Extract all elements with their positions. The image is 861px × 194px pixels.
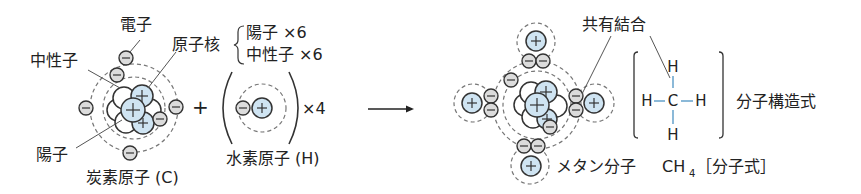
atom-c-center: C: [668, 92, 678, 110]
hydrogen-multiplier: ×4: [302, 99, 326, 118]
right-paren: [289, 72, 298, 144]
plus-sign: +: [192, 95, 209, 119]
methane-formation-diagram: 電子 中性子 原子核 陽子 炭素原子 (C) 陽子 ×6 中性子 ×6 + ×4…: [0, 0, 861, 194]
electron: [110, 68, 124, 82]
nucleus-label: 原子核: [172, 35, 220, 54]
molecular-formula-label: ［分子式］: [696, 157, 776, 176]
formula-ch: CH: [662, 157, 685, 176]
neutron-label: 中性子: [30, 51, 78, 70]
electron-label: 電子: [120, 15, 152, 34]
methane-molecule-label: メタン分子: [556, 157, 636, 176]
right-bracket: [719, 52, 723, 138]
hydrogen-atom: ×4 水素原子 (H): [223, 72, 326, 168]
electron: [119, 51, 133, 65]
carbon-nucleus: [107, 85, 161, 134]
methane-molecule: メタン分子: [454, 23, 636, 184]
electron: [484, 89, 498, 103]
electron: [504, 73, 518, 87]
electron: [569, 103, 583, 117]
electron: [79, 101, 93, 115]
covalent-bond-label: 共有結合: [582, 15, 646, 34]
proton-label: 陽子: [36, 145, 68, 164]
nucleus-neutron-count: 中性子 ×6: [246, 45, 323, 64]
molecular-formula: CH 4 ［分子式］: [662, 157, 776, 179]
left-paren: [223, 72, 232, 144]
atom-h-top: H: [667, 58, 678, 76]
carbon-atom-label: 炭素原子 (C): [86, 168, 179, 187]
electron: [536, 54, 550, 68]
hydrogen-proton: [526, 31, 546, 51]
hydrogen-proton: [462, 93, 482, 113]
nucleus-brace: [234, 26, 244, 64]
electron: [531, 139, 545, 153]
atom-h-bottom: H: [667, 126, 678, 144]
hydrogen-atom-label: 水素原子 (H): [226, 149, 320, 168]
electron: [569, 89, 583, 103]
electron: [153, 112, 167, 126]
nucleus-proton-count: 陽子 ×6: [246, 23, 307, 42]
atom-h-right: H: [695, 92, 706, 110]
structural-formula-label: 分子構造式: [736, 92, 816, 111]
hydrogen-proton: [521, 156, 541, 176]
electron: [484, 103, 498, 117]
electron: [543, 120, 557, 134]
left-bracket: [634, 52, 638, 138]
electron: [522, 54, 536, 68]
reaction-arrow: [368, 106, 414, 113]
proton: [252, 98, 272, 118]
methane-carbon-nucleus: [514, 81, 567, 129]
structural-formula: H H H H C 分子構造式: [634, 52, 816, 144]
electron: [123, 146, 137, 160]
electron: [236, 101, 250, 115]
electron: [169, 100, 183, 114]
electron: [517, 139, 531, 153]
atom-h-left: H: [641, 92, 652, 110]
hydrogen-proton: [584, 93, 604, 113]
formula-subscript: 4: [689, 168, 695, 179]
